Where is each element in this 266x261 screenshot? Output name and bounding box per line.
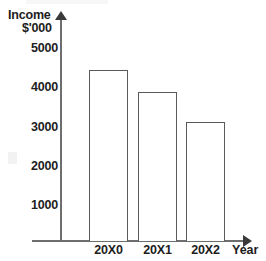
x-axis-label-20X1: 20X1 <box>143 243 171 257</box>
x-axis-label-20X2: 20X2 <box>191 243 219 257</box>
x-axis-category-labels: 20X020X120X2 <box>0 0 266 261</box>
bar-chart: Income $'000 Year 10002000300040005000 2… <box>0 0 266 261</box>
x-axis-label-20X0: 20X0 <box>94 243 122 257</box>
